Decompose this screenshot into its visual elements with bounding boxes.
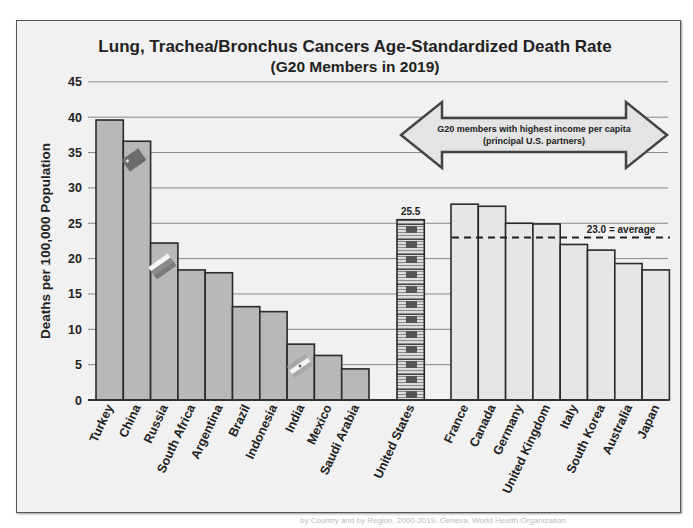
chart-subtitle: (G20 Members in 2019): [271, 58, 440, 75]
bar-italy: [560, 244, 587, 400]
average-label: 23.0 = average: [587, 224, 656, 235]
bar-united-kingdom: [533, 224, 560, 400]
x-tick-label: Russia: [141, 401, 171, 445]
x-tick-label: United States: [371, 402, 417, 480]
arrow-text-line1: G20 members with highest income per capi…: [437, 124, 632, 134]
chart-title: Lung, Trachea/Bronchus Cancers Age-Stand…: [98, 37, 611, 56]
y-tick-label: 30: [68, 181, 82, 195]
bar-argentina: [205, 273, 232, 400]
y-tick-label: 25: [68, 217, 82, 231]
bar-canada: [478, 206, 505, 400]
y-axis-label: Deaths per 100,000 Population: [38, 143, 53, 339]
source-footer: by Country and by Region, 2000-2019. Gen…: [300, 516, 690, 525]
bar-south-korea: [588, 250, 615, 400]
chart-canvas: Lung, Trachea/Bronchus Cancers Age-Stand…: [0, 0, 693, 528]
bar-turkey: [96, 120, 123, 400]
bar-china: [123, 141, 150, 400]
bar-south-africa: [178, 270, 205, 400]
bar-mexico: [314, 355, 341, 400]
x-tick-label: France: [441, 402, 471, 445]
y-tick-label: 5: [75, 358, 82, 372]
y-tick-label: 0: [75, 394, 82, 408]
y-tick-label: 35: [68, 146, 82, 160]
y-tick-label: 20: [68, 252, 82, 266]
bar-indonesia: [260, 312, 287, 400]
y-tick-label: 40: [68, 111, 82, 125]
bar-saudi-arabia: [342, 369, 369, 400]
x-axis-labels: TurkeyChinaRussiaSouth AfricaArgentinaBr…: [87, 401, 663, 495]
bar-brazil: [233, 307, 260, 400]
x-tick-label: China: [116, 401, 144, 439]
bar-france: [451, 204, 478, 400]
us-value-label: 25.5: [401, 206, 421, 217]
bar-australia: [615, 264, 642, 400]
bar-germany: [506, 223, 533, 400]
y-tick-label: 10: [68, 323, 82, 337]
x-tick-label: Japan: [635, 402, 663, 441]
x-tick-label: Brazil: [226, 402, 253, 439]
y-tick-label: 45: [68, 75, 82, 89]
x-tick-label: Turkey: [87, 402, 117, 444]
arrow-text-line2: (principal U.S. partners): [483, 136, 585, 146]
x-tick-label: Mexico: [304, 402, 335, 447]
income-arrow-annotation: G20 members with highest income per capi…: [401, 102, 667, 168]
bars: 25.5: [96, 120, 669, 400]
bar-united-states: [397, 220, 424, 400]
bar-japan: [642, 270, 669, 400]
y-tick-label: 15: [68, 287, 82, 301]
x-tick-label: Italy: [557, 402, 580, 431]
x-tick-label: India: [282, 401, 307, 434]
y-axis-ticks: 051015202530354045: [68, 75, 82, 407]
